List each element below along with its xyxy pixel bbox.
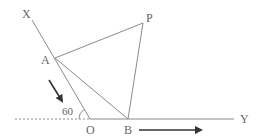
angle-arc — [79, 110, 85, 120]
angle-label-60: 60 — [62, 106, 73, 117]
label-B: B — [124, 124, 132, 136]
label-O: O — [86, 124, 95, 136]
line-XO — [32, 20, 90, 119]
diagram-canvas — [0, 0, 262, 140]
arrow-down-along-XO — [49, 80, 62, 101]
line-PB — [128, 23, 143, 119]
geometry-diagram: X A P O B Y 60 — [0, 0, 262, 140]
label-P: P — [146, 12, 153, 24]
label-X: X — [22, 8, 31, 20]
line-AP — [55, 23, 143, 58]
label-Y: Y — [240, 113, 249, 125]
label-A: A — [41, 54, 50, 66]
